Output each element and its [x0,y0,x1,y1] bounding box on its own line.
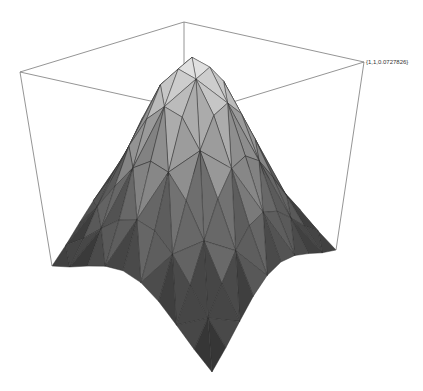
box-edge-left-vertical [20,72,52,266]
box-edge-top-left [20,22,184,72]
box-edge-right-vertical [336,62,364,250]
surface-mesh [52,57,336,372]
box-edge-top-right [184,22,364,62]
corner-coordinate-label: {1,1,0.0727826} [366,59,408,65]
surface-plot [0,0,423,391]
